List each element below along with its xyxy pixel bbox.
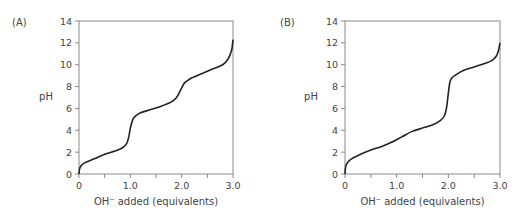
y-tick-label: 6: [332, 103, 338, 114]
y-tick-label: 4: [66, 125, 72, 136]
plot-frame: [79, 21, 233, 174]
y-tick-label: 14: [326, 16, 338, 27]
x-tick-label: 1.0: [389, 180, 404, 191]
y-tick-label: 8: [332, 81, 338, 92]
y-tick-label: 12: [326, 37, 338, 48]
y-tick-label: 14: [60, 16, 72, 27]
x-axis-label: OH⁻ added (equivalents): [94, 196, 218, 207]
titration-curve: [345, 43, 500, 174]
panel-label: (A): [12, 17, 27, 28]
y-tick-label: 0: [332, 169, 338, 180]
y-tick-label: 0: [66, 169, 72, 180]
y-tick-label: 12: [60, 37, 72, 48]
titration-charts: (A)0246810121401.02.03.0pHOH⁻ added (equ…: [0, 0, 517, 216]
y-tick-label: 6: [66, 103, 72, 114]
chart-panel-b: (B)0246810121401.02.03.0pHOH⁻ added (equ…: [280, 16, 508, 208]
x-axis-label: OH⁻ added (equivalents): [360, 196, 484, 207]
titration-curve: [79, 40, 233, 174]
x-tick-label: 1.0: [123, 180, 138, 191]
y-tick-label: 4: [332, 125, 338, 136]
y-tick-label: 10: [60, 59, 72, 70]
chart-panel-a: (A)0246810121401.02.03.0pHOH⁻ added (equ…: [12, 16, 241, 208]
y-axis-label: pH: [304, 91, 318, 102]
y-tick-label: 2: [332, 147, 338, 158]
x-tick-label: 3.0: [492, 180, 507, 191]
panel-label: (B): [280, 17, 295, 28]
x-tick-label: 0: [76, 180, 82, 191]
y-tick-label: 10: [326, 59, 338, 70]
y-tick-label: 8: [66, 81, 72, 92]
x-tick-label: 3.0: [225, 180, 240, 191]
x-tick-label: 2.0: [174, 180, 189, 191]
y-tick-label: 2: [66, 147, 72, 158]
x-tick-label: 2.0: [441, 180, 456, 191]
y-axis-label: pH: [39, 91, 53, 102]
x-tick-label: 0: [342, 180, 348, 191]
